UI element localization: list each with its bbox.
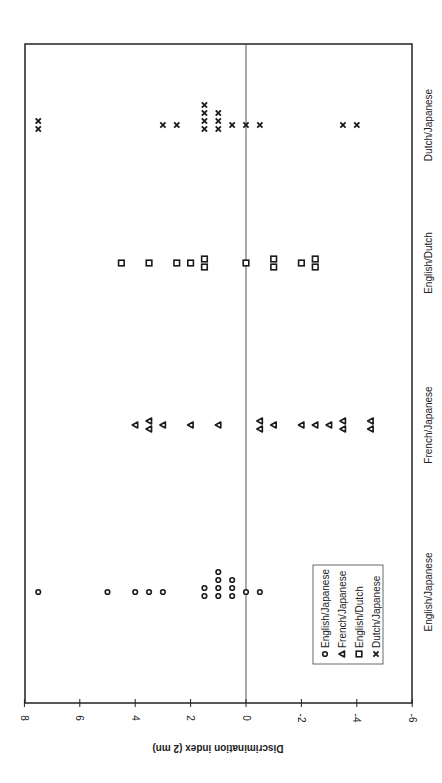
tick-label: 4: [130, 715, 141, 721]
legend: English/JapaneseFrench/JapaneseEnglish/D…: [313, 565, 383, 664]
svg-text:French/Japanese: French/Japanese: [423, 386, 434, 464]
category-label: English/Japanese: [423, 552, 434, 631]
data-point: [202, 594, 207, 599]
tick-label: 2: [185, 715, 196, 721]
data-point: [36, 590, 41, 595]
svg-text:English/Japanese: English/Japanese: [320, 569, 331, 648]
legend-item-label: English/Dutch: [354, 586, 365, 648]
data-point: [216, 594, 221, 599]
data-point: [202, 586, 207, 591]
value-axis-tick-labels: 86420-2-4-6: [19, 714, 418, 723]
legend-marker-icon: [356, 651, 362, 657]
data-point: [202, 256, 208, 262]
tick-label: 6: [74, 715, 85, 721]
axis-title-text: Discrimination index (2 mn): [152, 743, 283, 754]
data-point: [174, 260, 180, 266]
data-point: [243, 260, 249, 266]
legend-item-label: French/Japanese: [337, 570, 348, 648]
tick-label: 0: [241, 715, 252, 721]
data-point: [244, 590, 249, 595]
tick-label: -4: [351, 714, 362, 723]
svg-text:4: 4: [130, 715, 141, 721]
data-point: [312, 264, 318, 270]
category-label: English/Dutch: [423, 232, 434, 294]
data-point: [161, 590, 166, 595]
data-point: [258, 590, 263, 595]
svg-text:French/Japanese: French/Japanese: [337, 570, 348, 648]
data-point: [147, 590, 152, 595]
svg-text:English/Japanese: English/Japanese: [423, 552, 434, 631]
tick-label: -2: [296, 714, 307, 723]
data-point: [299, 260, 305, 266]
svg-text:English/Dutch: English/Dutch: [423, 232, 434, 294]
category-labels: English/JapaneseFrench/JapaneseEnglish/D…: [423, 88, 434, 631]
svg-text:English/Dutch: English/Dutch: [354, 586, 365, 648]
svg-text:0: 0: [241, 715, 252, 721]
data-point: [146, 260, 152, 266]
data-point: [216, 570, 221, 575]
svg-text:6: 6: [74, 715, 85, 721]
svg-text:Dutch/Japanese: Dutch/Japanese: [371, 575, 382, 648]
data-point: [202, 264, 208, 270]
legend-item-label: English/Japanese: [320, 569, 331, 648]
data-point: [230, 578, 235, 583]
svg-text:Dutch/Japanese: Dutch/Japanese: [423, 88, 434, 161]
data-point: [312, 256, 318, 262]
data-point: [230, 586, 235, 591]
svg-text:2: 2: [185, 715, 196, 721]
tick-label: -6: [407, 714, 418, 723]
value-axis-title: Discrimination index (2 mn): [152, 743, 283, 754]
svg-text:8: 8: [19, 715, 30, 721]
data-point: [216, 578, 221, 583]
data-point: [216, 586, 221, 591]
svg-text:-2: -2: [296, 714, 307, 723]
data-point: [133, 590, 138, 595]
category-label: Dutch/Japanese: [423, 88, 434, 161]
data-point: [271, 264, 277, 270]
legend-item-label: Dutch/Japanese: [371, 575, 382, 648]
category-label: French/Japanese: [423, 386, 434, 464]
legend-marker-icon: [323, 652, 328, 657]
svg-text:-6: -6: [407, 714, 418, 723]
data-point: [119, 260, 125, 266]
data-point: [230, 594, 235, 599]
svg-text:-4: -4: [351, 714, 362, 723]
data-point: [271, 256, 277, 262]
data-point: [188, 260, 194, 266]
tick-label: 8: [19, 715, 30, 721]
scatter-chart: 86420-2-4-6 Discrimination index (2 mn) …: [0, 0, 442, 783]
data-point: [105, 590, 110, 595]
